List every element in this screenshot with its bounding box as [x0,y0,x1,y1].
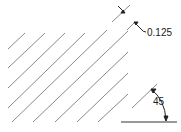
hatch-line [8,33,25,49]
hatch-line [77,73,128,122]
hatch-line [98,94,128,122]
hatch-line [55,52,128,122]
angle-label: 45 [153,96,165,107]
spacing-dimension [118,6,146,32]
hatch-line [127,22,135,30]
hatch-line [8,33,85,108]
hatch-line [8,33,45,68]
hatching-diagram: 0.125 45 [0,0,181,132]
spacing-label: 0.125 [147,27,172,38]
arrowhead-lower-icon [134,22,138,25]
hatch-line [12,30,107,122]
angle-arrowhead-bottom-icon [164,116,168,121]
hatch-line [33,31,128,122]
leader-line [141,29,146,32]
